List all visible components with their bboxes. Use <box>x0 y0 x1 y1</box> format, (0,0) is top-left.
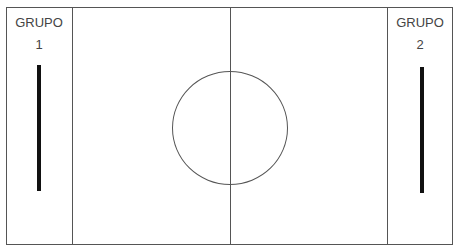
group-1-bar <box>37 65 41 191</box>
group-2-label: GRUPO 2 <box>387 12 453 56</box>
center-circle <box>172 71 288 185</box>
group-2-title: GRUPO <box>387 12 453 34</box>
group-2-number: 2 <box>387 34 453 56</box>
group-1-label: GRUPO 1 <box>6 12 72 56</box>
group-1-title: GRUPO <box>6 12 72 34</box>
left-goal-line <box>72 7 73 245</box>
group-1-number: 1 <box>6 34 72 56</box>
group-2-bar <box>420 67 424 193</box>
